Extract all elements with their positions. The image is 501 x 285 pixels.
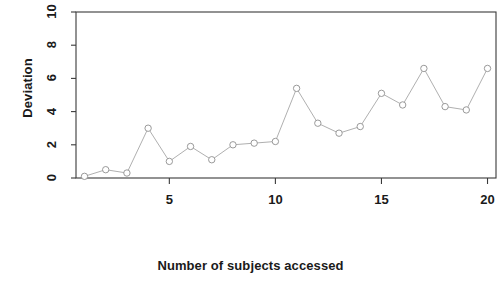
- y-axis-ticks: [71, 12, 76, 178]
- data-point: [166, 158, 172, 164]
- data-point: [399, 102, 405, 108]
- data-point: [272, 138, 278, 144]
- deviation-line-chart: Deviation Number of subjects accessed 02…: [0, 0, 501, 285]
- data-point: [463, 107, 469, 113]
- data-point: [315, 120, 321, 126]
- data-point: [357, 123, 363, 129]
- data-point: [336, 130, 342, 136]
- plot-area: [0, 0, 501, 285]
- data-point: [209, 157, 215, 163]
- data-markers: [81, 65, 490, 179]
- data-point: [124, 170, 130, 176]
- data-line: [84, 68, 487, 176]
- data-point: [187, 143, 193, 149]
- data-point: [251, 140, 257, 146]
- data-point: [103, 167, 109, 173]
- data-point: [421, 65, 427, 71]
- x-axis-ticks: [169, 178, 487, 184]
- data-point: [378, 90, 384, 96]
- data-point: [442, 103, 448, 109]
- data-point: [81, 173, 87, 179]
- data-point: [145, 125, 151, 131]
- data-point: [293, 85, 299, 91]
- data-point: [230, 142, 236, 148]
- data-point: [484, 65, 490, 71]
- plot-frame: [76, 12, 496, 178]
